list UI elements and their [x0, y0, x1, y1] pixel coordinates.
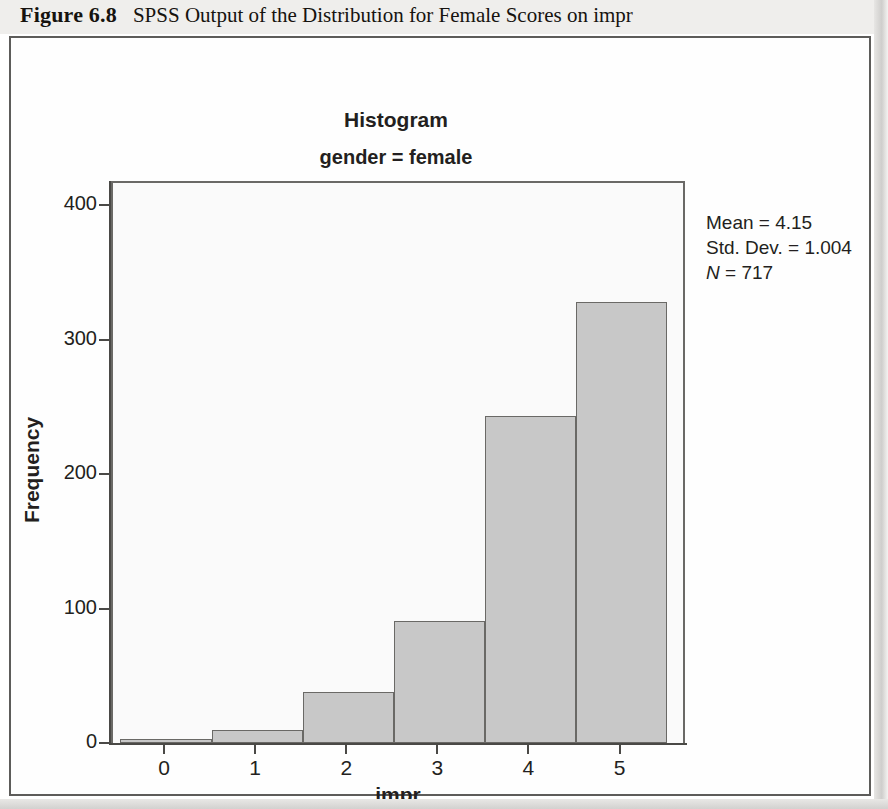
x-axis-tick [254, 743, 256, 754]
y-axis-tick-label: 0 [35, 730, 97, 753]
statistics-annotation: Mean = 4.15 Std. Dev. = 1.004 N = 717 [706, 210, 852, 285]
x-axis-tick-label: 5 [600, 756, 640, 780]
y-axis-tick [99, 742, 111, 744]
histogram-bar [576, 302, 667, 743]
x-axis-tick-label: 0 [144, 756, 184, 780]
x-axis-tick [163, 743, 165, 754]
x-axis-tick [345, 743, 347, 754]
figure-caption-title: SPSS Output of the Distribution for Fema… [133, 3, 633, 27]
histogram-bar [303, 692, 394, 743]
y-axis-tick [99, 608, 111, 610]
page-edge-right [874, 0, 888, 809]
x-axis-tick [527, 743, 529, 754]
y-axis-tick-label: 100 [35, 596, 97, 619]
y-axis-tick [99, 204, 111, 206]
y-axis-line [109, 181, 111, 745]
histogram-bar [394, 621, 485, 743]
stat-mean: Mean = 4.15 [706, 210, 852, 235]
stat-n-symbol: N [706, 262, 720, 283]
x-axis-tick [436, 743, 438, 754]
histogram-bars [113, 183, 683, 743]
page-edge-bottom [0, 799, 888, 809]
plot-area [111, 181, 685, 743]
figure-caption: Figure 6.8SPSS Output of the Distributio… [20, 2, 633, 28]
stat-n-value: = 717 [725, 262, 773, 283]
stat-std-dev: Std. Dev. = 1.004 [706, 235, 852, 260]
stat-n: N = 717 [706, 260, 852, 285]
histogram-bar [212, 730, 303, 743]
figure-frame: Histogram gender = female 0100200300400 … [9, 36, 871, 796]
chart-title: Histogram [11, 108, 781, 132]
y-axis-tick-label: 400 [35, 192, 97, 215]
x-axis-tick-label: 4 [508, 756, 548, 780]
x-axis-tick [619, 743, 621, 754]
y-axis-tick-label: 300 [35, 327, 97, 350]
chart-subtitle: gender = female [11, 146, 781, 169]
y-axis-tick [99, 473, 111, 475]
x-axis-tick-label: 1 [235, 756, 275, 780]
y-axis-tick [99, 339, 111, 341]
y-axis-title: Frequency [20, 370, 44, 570]
figure-caption-bar: Figure 6.8SPSS Output of the Distributio… [0, 0, 888, 34]
figure-caption-label: Figure 6.8 [20, 2, 117, 27]
x-axis-line [109, 743, 687, 745]
x-axis-tick-label: 3 [417, 756, 457, 780]
histogram-bar [485, 416, 576, 743]
y-axis-tick-label: 200 [35, 461, 97, 484]
x-axis-tick-label: 2 [326, 756, 366, 780]
